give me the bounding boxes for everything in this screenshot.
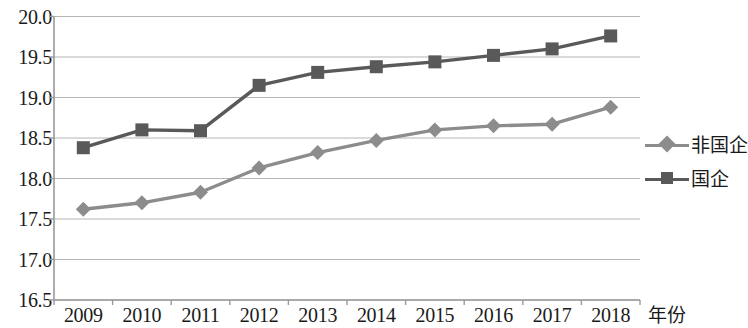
x-axis-tick-label: 2015: [415, 303, 454, 327]
x-axis-tick-label: 2011: [181, 303, 219, 327]
x-axis-tick-label: 2017: [533, 303, 572, 327]
legend-label-feiguoqi: 非国企: [691, 135, 748, 155]
square-marker-icon: [661, 172, 673, 184]
series-guoqi: [77, 29, 617, 154]
data-point-square: [546, 42, 559, 55]
data-series-layer: [76, 29, 618, 216]
data-point-diamond: [545, 117, 560, 132]
data-point-square: [428, 55, 441, 68]
data-point-square: [194, 124, 207, 137]
legend-label-guoqi: 国企: [691, 169, 729, 189]
axis-lines: [54, 17, 640, 301]
data-point-square: [604, 29, 617, 42]
x-axis-tick-label: 2009: [64, 303, 103, 327]
series-line: [83, 36, 610, 148]
legend-item-guoqi[interactable]: 国企: [645, 162, 745, 196]
data-point-diamond: [427, 122, 442, 137]
legend-key-guoqi: [645, 169, 689, 189]
data-point-diamond: [369, 133, 384, 148]
data-point-square: [77, 141, 90, 154]
legend-item-feiguoqi[interactable]: 非国企: [645, 128, 745, 162]
data-point-square: [311, 66, 324, 79]
x-axis-tick-label: 2018: [591, 303, 630, 327]
x-axis-tick-label: 2013: [298, 303, 337, 327]
x-axis-tick-label: 2014: [357, 303, 396, 327]
data-point-diamond: [252, 160, 267, 175]
data-point-diamond: [193, 185, 208, 200]
x-axis-title: 年份: [648, 303, 686, 327]
data-point-diamond: [486, 118, 501, 133]
data-point-square: [370, 60, 383, 73]
data-point-diamond: [76, 202, 91, 217]
x-axis-tick-label: 2016: [474, 303, 513, 327]
series-feiguoqi: [76, 100, 618, 217]
data-point-square: [135, 123, 148, 136]
series-line: [83, 107, 610, 209]
data-point-diamond: [134, 195, 149, 210]
diamond-marker-icon: [659, 136, 676, 153]
data-point-diamond: [603, 100, 618, 115]
legend-key-feiguoqi: [645, 135, 689, 155]
data-point-diamond: [310, 145, 325, 160]
chart-legend: 非国企 国企: [645, 128, 745, 196]
data-point-square: [487, 49, 500, 62]
x-axis-tick-label: 2010: [122, 303, 161, 327]
x-axis-ticks: [49, 17, 640, 306]
gridlines: [54, 17, 640, 301]
data-point-square: [253, 79, 266, 92]
x-axis-tick-labels: 2009201020112012201320142015201620172018: [0, 303, 747, 328]
x-axis-tick-label: 2012: [240, 303, 279, 327]
